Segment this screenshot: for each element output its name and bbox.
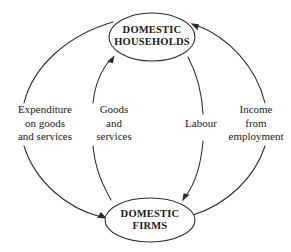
arrowhead-labour (182, 193, 189, 201)
flow-label-expenditure: Expenditure on goods and services (6, 103, 84, 144)
flow-path-income-upper (196, 25, 265, 103)
flow-path-goods-lower (93, 146, 111, 200)
flow-label-expenditure-line1: Expenditure (6, 103, 84, 117)
flow-label-income-line1: Income (222, 103, 290, 117)
flow-path-expenditure (24, 22, 113, 103)
flow-path-income-lower (193, 146, 265, 215)
flow-label-goods: Goods and services (86, 103, 142, 144)
flow-label-income: Income from employment (222, 103, 290, 144)
flow-path-labour-lower (185, 141, 203, 197)
flow-label-goods-line2: and (86, 117, 142, 131)
households-label-line2: HOUSEHOLDS (114, 36, 190, 47)
flow-label-income-line3: employment (222, 130, 290, 144)
flow-label-goods-line1: Goods (86, 103, 142, 117)
node-households: DOMESTIC HOUSEHOLDS (109, 13, 195, 61)
firms-label-line1: DOMESTIC (121, 208, 180, 219)
flow-label-labour: Labour (178, 117, 224, 131)
households-label-line1: DOMESTIC (123, 24, 182, 35)
flow-label-expenditure-line2: on goods (6, 117, 84, 131)
node-firms: DOMESTIC FIRMS (105, 198, 195, 242)
circular-flow-diagram: DOMESTIC HOUSEHOLDS DOMESTIC FIRMS Expen… (0, 0, 291, 252)
flow-path-labour-upper (188, 57, 203, 114)
flow-path-expenditure-lower (24, 146, 101, 217)
flow-label-expenditure-line3: and services (6, 130, 84, 144)
flow-label-goods-line3: services (86, 130, 142, 144)
firms-label-line2: FIRMS (133, 220, 168, 231)
flow-label-income-line2: from (222, 117, 290, 131)
flow-label-labour-line1: Labour (178, 117, 224, 131)
flow-path-goods-upper (93, 59, 111, 103)
